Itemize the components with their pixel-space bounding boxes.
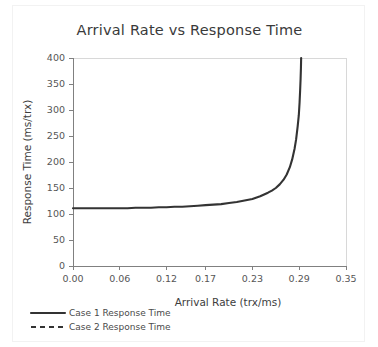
x-tick-label: 0.12	[156, 273, 177, 284]
plot-frame	[73, 58, 346, 266]
x-tick-label: 0.17	[195, 273, 216, 284]
series-group	[73, 58, 301, 208]
legend-label-2: Case 2 Response Time	[69, 322, 171, 332]
chart-plot: 050100150200250300350400 0.000.060.120.1…	[13, 6, 366, 343]
x-tick-label: 0.29	[289, 273, 310, 284]
y-tick-label: 150	[47, 182, 65, 193]
y-tick-label: 350	[47, 78, 65, 89]
y-tick-label: 50	[53, 234, 65, 245]
series-line-1	[73, 58, 301, 208]
x-tick-label: 0.23	[242, 273, 263, 284]
x-axis-ticks: 0.000.060.120.170.230.290.35	[62, 266, 356, 284]
y-tick-label: 100	[47, 208, 65, 219]
y-tick-label: 200	[47, 156, 65, 167]
x-axis-title: Arrival Rate (trx/ms)	[175, 296, 282, 308]
y-tick-label: 300	[47, 104, 65, 115]
y-tick-label: 250	[47, 130, 65, 141]
chart-legend: Case 1 Response TimeCase 2 Response Time	[31, 308, 171, 332]
y-axis-ticks: 050100150200250300350400	[47, 52, 73, 271]
y-tick-label: 0	[59, 260, 65, 271]
chart-card: Arrival Rate vs Response Time 0501001502…	[12, 5, 365, 342]
x-tick-label: 0.35	[335, 273, 356, 284]
y-tick-label: 400	[47, 52, 65, 63]
x-tick-label: 0.06	[109, 273, 130, 284]
x-tick-label: 0.00	[62, 273, 83, 284]
y-axis-title: Response Time (ms/trx)	[21, 100, 33, 225]
legend-label-1: Case 1 Response Time	[69, 308, 171, 318]
